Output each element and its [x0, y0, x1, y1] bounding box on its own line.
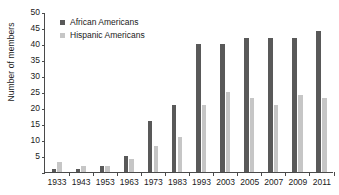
bar: [105, 166, 110, 172]
x-tick-mark: [93, 172, 94, 176]
bar: [250, 98, 255, 172]
bar: [76, 169, 81, 172]
x-tick-mark: [117, 172, 118, 176]
y-tick-label: 25: [31, 87, 40, 98]
y-tick-label: 45: [31, 23, 40, 34]
bar-group: [238, 13, 262, 172]
bar: [52, 169, 57, 172]
y-tick-mark: [42, 173, 45, 174]
x-tick-mark: [141, 172, 142, 176]
legend-item: Hispanic Americans: [60, 29, 145, 42]
bar: [172, 105, 177, 172]
legend-label: African Americans: [70, 16, 139, 29]
bar: [298, 95, 303, 172]
chart-legend: African Americans Hispanic Americans: [60, 16, 145, 42]
bar: [244, 38, 249, 172]
bar: [274, 105, 279, 172]
y-tick-label: 10: [31, 135, 40, 146]
bar-group: [141, 13, 165, 172]
x-tick-mark: [189, 172, 190, 176]
bar: [129, 159, 134, 172]
x-tick-mark: [69, 172, 70, 176]
bar: [316, 31, 321, 172]
y-tick-label: 15: [31, 119, 40, 130]
x-tick-mark: [237, 172, 238, 176]
x-tick-mark: [334, 172, 335, 176]
bar-chart: Number of members 5101520253035404550193…: [0, 0, 339, 195]
bar-group: [214, 13, 238, 172]
x-tick-label: 2011: [302, 177, 339, 188]
bar-group: [190, 13, 214, 172]
bar: [154, 146, 159, 172]
bar-group: [286, 13, 310, 172]
bar: [268, 38, 273, 172]
x-tick-mark: [261, 172, 262, 176]
bar: [196, 44, 201, 172]
bar: [100, 166, 105, 172]
legend-swatch-icon: [60, 20, 65, 25]
bar: [57, 162, 62, 172]
bar-group: [310, 13, 334, 172]
y-tick-label: 50: [31, 7, 40, 18]
x-tick-mark: [213, 172, 214, 176]
bar: [202, 105, 207, 172]
bar: [226, 92, 231, 172]
x-tick-mark: [165, 172, 166, 176]
bar: [81, 166, 86, 172]
x-tick-mark: [309, 172, 310, 176]
bar: [220, 44, 225, 172]
x-tick-mark: [285, 172, 286, 176]
bar-group: [165, 13, 189, 172]
y-tick-label: 35: [31, 55, 40, 66]
bar: [124, 156, 129, 172]
bar: [322, 98, 327, 172]
bar: [178, 137, 183, 172]
legend-label: Hispanic Americans: [70, 29, 145, 42]
y-tick-label: 40: [31, 39, 40, 50]
bar: [292, 38, 297, 172]
legend-swatch-icon: [60, 33, 65, 38]
y-tick-label: 20: [31, 103, 40, 114]
bar-group: [262, 13, 286, 172]
y-tick-label: 30: [31, 71, 40, 82]
y-tick-label: 5: [35, 151, 40, 162]
bar: [148, 121, 153, 172]
y-axis-title: Number of members: [6, 2, 20, 122]
legend-item: African Americans: [60, 16, 145, 29]
